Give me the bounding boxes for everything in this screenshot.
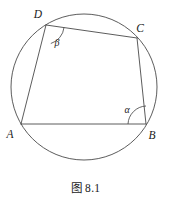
- figure-container: A B C D α β 图 8.1: [0, 0, 171, 209]
- angle-arc-alpha: [128, 106, 146, 124]
- vertex-label-d: D: [33, 8, 43, 20]
- figure-caption: 图 8.1: [0, 181, 171, 195]
- vertex-label-b: B: [148, 129, 155, 141]
- side-bc: [137, 38, 146, 124]
- vertex-label-a: A: [5, 128, 14, 140]
- side-cd: [46, 25, 137, 38]
- angle-label-beta: β: [54, 37, 60, 48]
- geometry-diagram: A B C D α β: [0, 0, 171, 209]
- circumscribed-circle: [11, 14, 157, 160]
- side-da: [21, 25, 46, 124]
- angle-label-alpha: α: [124, 104, 130, 115]
- vertex-label-c: C: [136, 22, 144, 34]
